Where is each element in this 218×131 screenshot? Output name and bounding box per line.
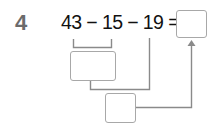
connector-box2-to-answer (136, 45, 192, 108)
arrow-up-icon (188, 40, 196, 46)
connector-box1-to-19 (91, 38, 150, 90)
connector-lines (0, 0, 218, 131)
bracket-43-15 (74, 39, 112, 48)
